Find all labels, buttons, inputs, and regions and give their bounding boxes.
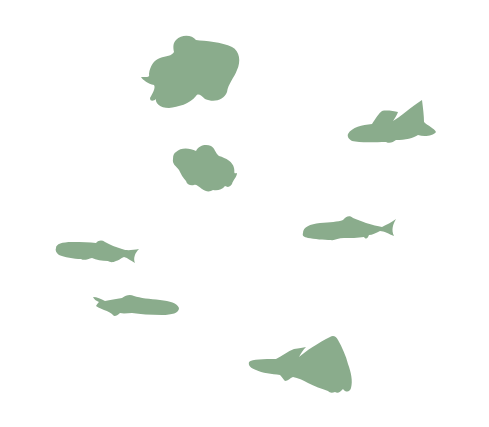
minnow-left-icon — [56, 241, 139, 263]
minnow-lower-left-icon — [93, 295, 179, 316]
guppy-top-right-icon — [348, 100, 436, 143]
fish-silhouettes — [0, 0, 489, 427]
fancy-guppy-bottom-icon — [249, 336, 352, 393]
fancy-goldfish-large-icon — [141, 36, 239, 108]
fancy-goldfish-small-icon — [173, 145, 237, 191]
fish-illustration — [0, 0, 489, 427]
minnow-right-icon — [303, 216, 396, 240]
